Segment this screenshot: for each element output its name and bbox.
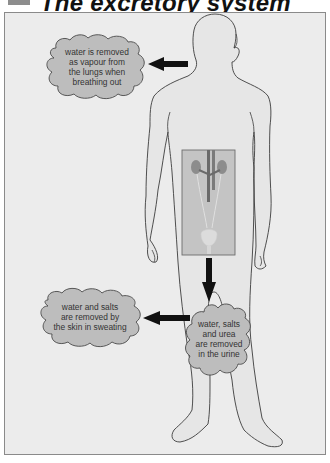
- excretory-diagram: [0, 0, 330, 463]
- arrow-left-icon: [148, 57, 188, 71]
- callout-line: are removed by: [42, 312, 138, 322]
- callout-line: water, salts: [188, 319, 250, 329]
- callout-line: water and salts: [42, 302, 138, 312]
- callout-line: breathing out: [52, 77, 142, 87]
- callout-line: water is removed: [52, 47, 142, 57]
- left-kidney-icon: [191, 160, 201, 174]
- callout-line: and urea: [188, 329, 250, 339]
- callout-line: are removed: [188, 339, 250, 349]
- callout-line: as vapour from: [52, 57, 142, 67]
- callout-line: in the urine: [188, 349, 250, 359]
- callout-line: the skin in sweating: [42, 322, 138, 332]
- callout-lungs-text: water is removed as vapour from the lung…: [52, 47, 142, 87]
- callout-urine-text: water, salts and urea are removed in the…: [188, 319, 250, 359]
- right-kidney-icon: [217, 160, 227, 174]
- organ-inset-box: [182, 150, 235, 255]
- callout-skin-text: water and salts are removed by the skin …: [42, 302, 138, 332]
- callout-line: the lungs when: [52, 67, 142, 77]
